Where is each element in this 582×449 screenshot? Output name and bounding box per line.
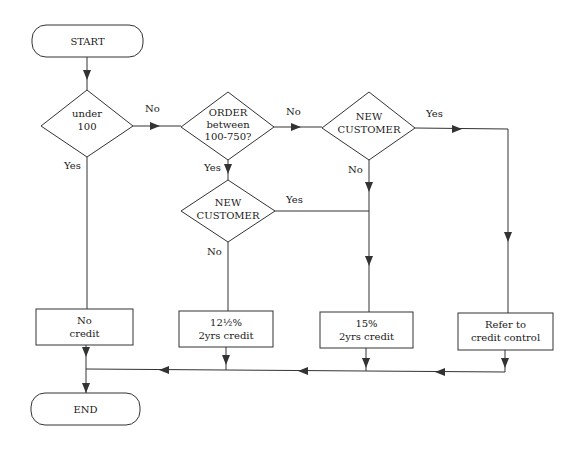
process-15-percent-label: 15% 2yrs credit	[320, 317, 413, 343]
arrowhead-icon	[452, 125, 462, 133]
arrowhead-icon	[222, 355, 230, 365]
process-refer-label: Refer to credit control	[458, 318, 553, 344]
edge-label-under100-no: No	[145, 103, 160, 115]
process-15-percent-line2: 2yrs credit	[320, 330, 413, 343]
edge-label-newcust-lower-yes: Yes	[286, 194, 303, 206]
arrowhead-icon	[365, 256, 373, 266]
arrowhead-icon	[501, 358, 509, 368]
edge-label-newcust-top-no: No	[348, 164, 363, 176]
edge-label-newcust-lower-no: No	[207, 246, 222, 258]
decision-new-customer-lower-line1: NEW	[183, 196, 273, 209]
process-no-credit-line2: credit	[36, 327, 133, 340]
decision-new-customer-top-line1: NEW	[324, 110, 414, 123]
edge-label-under100-yes: Yes	[64, 160, 81, 172]
arrowhead-icon	[83, 70, 91, 80]
process-no-credit-line1: No	[36, 314, 133, 327]
flowchart-canvas	[0, 0, 582, 449]
arrowhead-icon	[298, 367, 308, 375]
arrowhead-icon	[504, 232, 512, 242]
edge-label-order-yes: Yes	[204, 162, 221, 174]
decision-new-customer-lower-label: NEW CUSTOMER	[183, 196, 273, 222]
arrowhead-icon	[435, 368, 445, 376]
decision-under-100-label: under 100	[47, 107, 127, 133]
start-label: START	[32, 35, 143, 48]
process-12-5-percent-line1: 12½%	[179, 316, 273, 329]
process-15-percent-line1: 15%	[320, 317, 413, 330]
arrowhead-icon	[150, 122, 160, 130]
process-12-5-percent-line2: 2yrs credit	[179, 329, 273, 342]
decision-order-range-line2: between	[188, 119, 268, 131]
decision-order-range-line3: 100-750?	[188, 131, 268, 143]
edge-newcust-top-yes	[415, 128, 508, 313]
end-label: END	[31, 403, 140, 416]
decision-order-range-line1: ORDER	[188, 107, 268, 119]
arrowhead-icon	[362, 358, 370, 368]
process-no-credit-label: No credit	[36, 314, 133, 340]
decision-new-customer-lower-line2: CUSTOMER	[183, 209, 273, 222]
arrowhead-icon	[224, 164, 232, 174]
decision-order-range-label: ORDER between 100-750?	[188, 107, 268, 143]
arrowhead-icon	[82, 347, 90, 357]
edge-label-newcust-top-yes: Yes	[426, 108, 443, 120]
edge-label-order-no: No	[286, 106, 301, 118]
decision-under-100-line2: 100	[47, 120, 127, 133]
process-12-5-percent-label: 12½% 2yrs credit	[179, 316, 273, 342]
process-refer-line1: Refer to	[458, 318, 553, 331]
decision-under-100-line1: under	[47, 107, 127, 120]
process-refer-line2: credit control	[458, 331, 553, 344]
decision-new-customer-top-line2: CUSTOMER	[324, 123, 414, 136]
decision-new-customer-top-label: NEW CUSTOMER	[324, 110, 414, 136]
arrowhead-icon	[82, 383, 90, 393]
arrowhead-icon	[365, 182, 373, 192]
arrowhead-icon	[159, 366, 169, 374]
arrowhead-icon	[291, 123, 301, 131]
